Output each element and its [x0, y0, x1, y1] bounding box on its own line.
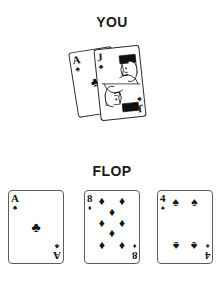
clubs-icon: ♣ — [136, 96, 141, 103]
spades-icon: ♠ — [191, 240, 197, 252]
you-section-label: YOU — [0, 14, 224, 30]
pip-layout: ♠ ♠ ♠ ♠ — [167, 196, 203, 258]
flop-card-four-of-spades[interactable]: 4 ♠ ♠ ♠ ♠ ♠ 4 ♠ — [157, 190, 213, 264]
clubs-icon: ♣ — [31, 220, 40, 234]
flop-section-label: FLOP — [0, 163, 224, 179]
card-index-top-left: 4 ♠ — [160, 193, 166, 211]
spades-icon: ♠ — [161, 204, 165, 211]
diamonds-icon: ♦ — [119, 240, 125, 252]
card-index-bottom-right: 8 ♦ — [132, 243, 138, 261]
card-rank: 4 — [160, 193, 166, 204]
clubs-icon: ♣ — [13, 204, 18, 211]
card-face: J ♣ — [94, 46, 145, 120]
pip-layout: ♦ ♦ ♦ ♦ ♦ ♦ ♦ ♦ — [94, 196, 130, 258]
diamonds-icon: ♦ — [109, 228, 115, 240]
diamonds-icon: ♦ — [99, 195, 105, 207]
spades-icon: ♠ — [172, 196, 178, 208]
card-index-bottom-right: 4 ♠ — [205, 243, 211, 261]
card-index-top-left: 8 ♦ — [87, 193, 93, 211]
card-rank: 8 — [132, 250, 138, 261]
card-index-top-left: A ♣ — [11, 193, 19, 211]
flop-card-eight-of-diamonds[interactable]: 8 ♦ ♦ ♦ ♦ ♦ ♦ ♦ ♦ ♦ 8 ♦ — [84, 190, 140, 264]
card-rank: A — [72, 54, 82, 66]
clubs-icon: ♣ — [75, 65, 81, 73]
diamonds-icon: ♦ — [132, 243, 136, 250]
card-index-bottom-right: A ♣ — [53, 243, 61, 261]
hole-card-jack-of-clubs[interactable]: J ♣ — [93, 45, 146, 121]
spades-icon: ♠ — [172, 240, 178, 252]
spades-icon: ♠ — [205, 243, 209, 250]
diamonds-icon: ♦ — [119, 195, 125, 207]
diamonds-icon: ♦ — [109, 206, 115, 218]
card-rank: 8 — [87, 193, 93, 204]
card-rank: A — [53, 250, 61, 261]
card-index-bottom-right: J ♣ — [136, 96, 143, 114]
diamonds-icon: ♦ — [119, 217, 125, 229]
diamonds-icon: ♦ — [99, 217, 105, 229]
diamonds-icon: ♦ — [88, 204, 92, 211]
hole-cards-group: A ♣ ♣ A ♣ J ♣ — [0, 38, 224, 142]
spades-icon: ♠ — [191, 196, 197, 208]
card-index-top-left: A ♣ — [72, 54, 83, 73]
flop-card-ace-of-clubs[interactable]: A ♣ ♣ A ♣ — [8, 190, 64, 264]
flop-cards-group: A ♣ ♣ A ♣ 8 ♦ ♦ ♦ ♦ ♦ ♦ ♦ ♦ ♦ 8 ♦ 4 — [0, 189, 224, 269]
clubs-icon: ♣ — [55, 243, 60, 250]
card-rank: 4 — [205, 250, 211, 261]
diamonds-icon: ♦ — [99, 240, 105, 252]
card-rank: A — [11, 193, 19, 204]
card-rank: J — [137, 103, 144, 115]
